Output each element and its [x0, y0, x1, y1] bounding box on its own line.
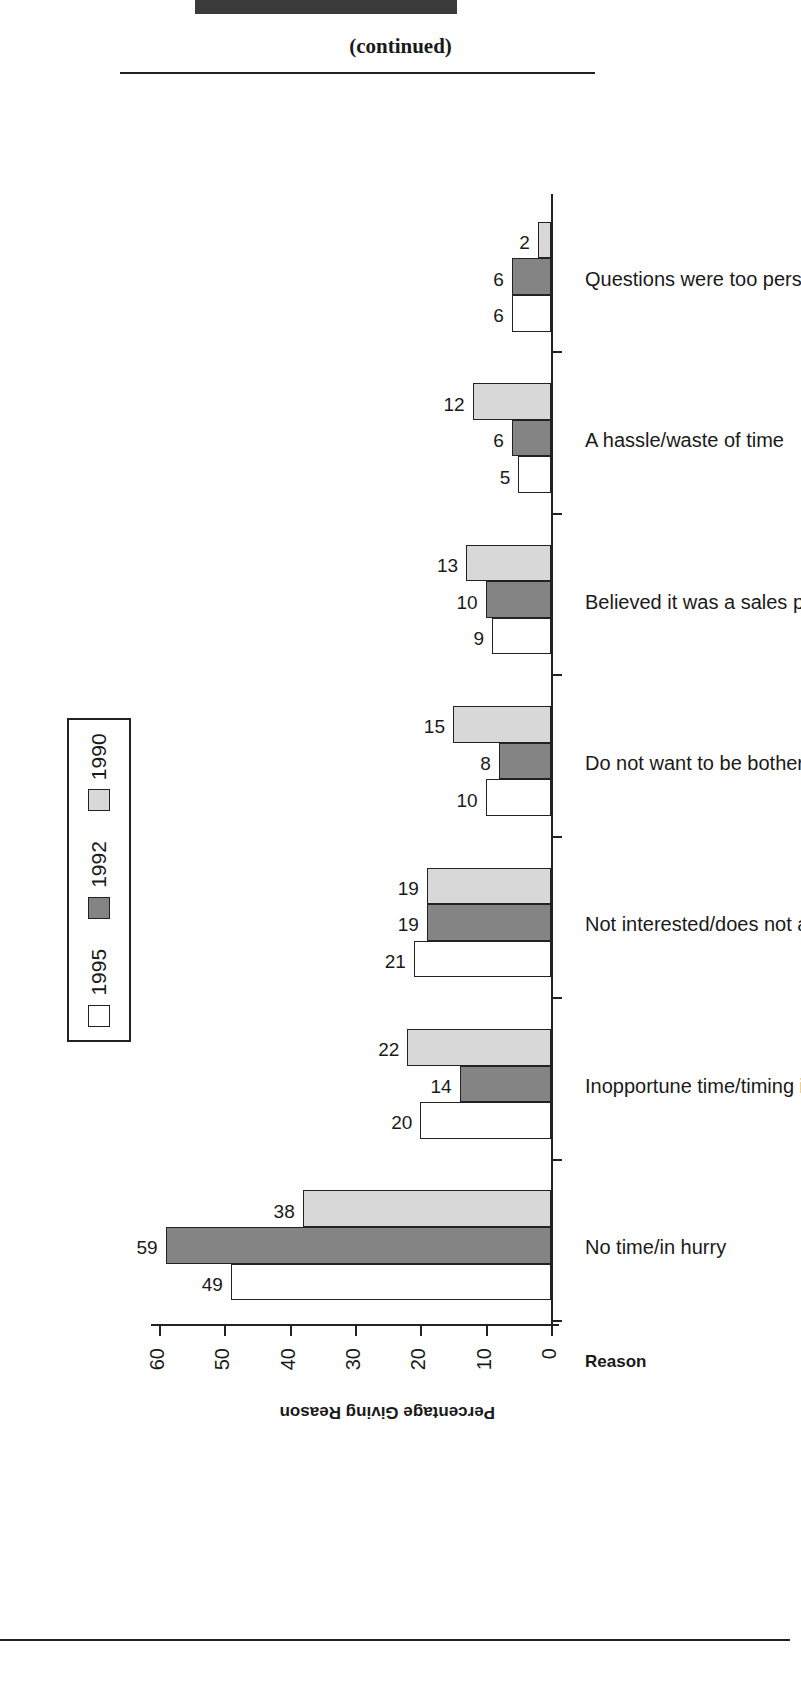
plot-area: 49593820142221191910815910135612662: [159, 196, 551, 1326]
category-tick: [551, 351, 562, 353]
category-label: Inopportune time/timing inappropriate: [585, 1074, 801, 1097]
bar-value-label: 5: [499, 466, 510, 488]
bar-1990-0: [302, 1190, 550, 1227]
bar-1990-3: [453, 706, 551, 743]
value-tick-label: 50: [211, 1348, 234, 1392]
legend-label-1992: 1992: [87, 841, 111, 888]
value-tick: [159, 1326, 161, 1336]
legend-item-1992: 1992: [87, 841, 111, 919]
value-tick-label: 60: [146, 1348, 169, 1392]
legend-swatch-1992: [88, 896, 110, 918]
bar-1992-2: [426, 904, 550, 941]
bar-value-label: 8: [480, 753, 491, 775]
bar-value-label: 22: [378, 1039, 399, 1061]
bar-value-label: 2: [519, 232, 530, 254]
legend-label-1990: 1990: [87, 733, 111, 780]
bar-1992-1: [459, 1065, 550, 1102]
bar-1990-6: [537, 221, 550, 258]
value-tick-label: 20: [407, 1348, 430, 1392]
legend-item-1990: 1990: [87, 733, 111, 811]
category-label: No time/in hurry: [585, 1236, 726, 1259]
value-tick: [355, 1326, 357, 1336]
bar-1992-4: [485, 581, 550, 618]
bar-1992-0: [165, 1227, 550, 1264]
bar-value-label: 38: [273, 1200, 294, 1222]
bar-value-label: 10: [456, 789, 477, 811]
category-tick: [551, 1320, 562, 1322]
bar-value-label: 21: [384, 951, 405, 973]
bar-1995-2: [413, 940, 550, 977]
category-label: Not interested/does not apply to me: [585, 913, 801, 936]
category-tick: [551, 674, 562, 676]
bar-value-label: 19: [397, 877, 418, 899]
bar-1995-1: [420, 1102, 551, 1139]
bar-1992-6: [511, 258, 550, 295]
value-tick: [289, 1326, 291, 1336]
bar-1990-1: [407, 1028, 551, 1065]
category-tick: [551, 835, 562, 837]
bar-value-label: 6: [493, 305, 504, 327]
bar-value-label: 13: [436, 554, 457, 576]
legend-swatch-1990: [88, 789, 110, 811]
bar-value-label: 10: [456, 591, 477, 613]
value-tick-label: 40: [276, 1348, 299, 1392]
bar-value-label: 59: [136, 1237, 157, 1259]
category-axis-title: Reason: [585, 1352, 646, 1372]
bar-1995-6: [511, 295, 550, 332]
value-tick: [224, 1326, 226, 1336]
value-axis-title: Percentage Giving Reason: [279, 1402, 494, 1422]
chart-legend: 199519921990: [67, 718, 131, 1042]
category-label: Questions were too personal: [585, 267, 801, 290]
category-tick: [551, 512, 562, 514]
category-tick: [551, 997, 562, 999]
category-tick: [551, 1158, 562, 1160]
value-tick-label: 10: [472, 1348, 495, 1392]
bar-1995-4: [492, 617, 551, 654]
bar-1990-2: [426, 867, 550, 904]
legend-item-1995: 1995: [87, 948, 111, 1026]
bar-1990-5: [472, 383, 550, 420]
category-label: Believed it was a sales pitch: [585, 590, 801, 613]
grouped-bar-chart: 199519921990 0102030405060 Percentage Gi…: [51, 98, 751, 1598]
value-tick: [420, 1326, 422, 1336]
bar-1995-0: [230, 1263, 550, 1300]
bar-value-label: 14: [430, 1075, 451, 1097]
value-tick-label: 0: [538, 1348, 561, 1392]
bar-value-label: 49: [201, 1273, 222, 1295]
bar-value-label: 6: [493, 430, 504, 452]
bar-value-label: 20: [391, 1112, 412, 1134]
bar-1995-5: [518, 456, 551, 493]
bar-value-label: 6: [493, 268, 504, 290]
figure-container: 199519921990 0102030405060 Percentage Gi…: [0, 0, 801, 1695]
bar-1992-5: [511, 419, 550, 456]
category-label: Do not want to be bothered/invasion of p…: [585, 752, 801, 775]
value-tick-label: 30: [342, 1348, 365, 1392]
bar-1992-3: [498, 742, 550, 779]
legend-label-1995: 1995: [87, 948, 111, 995]
legend-swatch-1995: [88, 1004, 110, 1026]
bar-1995-3: [485, 779, 550, 816]
bar-value-label: 19: [397, 914, 418, 936]
bar-value-label: 15: [423, 716, 444, 738]
bar-1990-4: [466, 544, 551, 581]
bar-value-label: 9: [473, 628, 484, 650]
category-label: A hassle/waste of time: [585, 429, 784, 452]
value-tick: [485, 1326, 487, 1336]
bar-value-label: 12: [443, 393, 464, 415]
value-tick: [551, 1326, 553, 1336]
